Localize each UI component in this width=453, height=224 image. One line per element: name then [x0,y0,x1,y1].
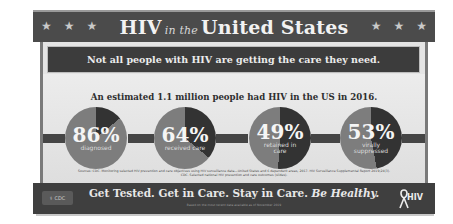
title-hiv: HIV [120,16,162,38]
sources-text: Sources: CDC. Monitoring selected HIV pr… [43,169,425,178]
star-icon: ★ [87,19,98,33]
subtitle-box: Not all people with HIV are getting the … [47,46,420,73]
stat-label: received care [165,145,206,152]
star-icon: ★ [416,19,427,33]
stat-circle-virally-suppressed: 53% virally suppressed [340,107,402,169]
star-icon: ★ [371,19,382,33]
hiv-label: HIV [407,193,423,202]
sources-line-2: CDC. Selected national HIV prevention an… [43,173,425,177]
stars-left: ★ ★ ★ [41,19,97,33]
title-united-states: United States [201,16,348,38]
connector-bar [43,134,65,143]
stat-circle-diagnosed: 86% diagnosed [65,107,127,169]
stat-label: diagnosed [80,145,111,152]
connector-bar [216,134,248,143]
header-banner: ★ ★ ★ HIVin theUnited States ★ ★ ★ [33,10,435,42]
connector-bar [128,134,154,143]
tagline-emphasis: Be Healthy. [311,187,379,199]
stat-circle-received-care: 64% received care [154,107,216,169]
stat-percent: 86% [73,125,120,145]
estimate-heading: An estimated 1.1 million people had HIV … [43,92,425,102]
star-icon: ★ [41,19,52,33]
stat-circle-retained-in-care: 49% retained in care [249,107,311,169]
star-icon: ★ [64,19,75,33]
stars-right: ★ ★ ★ [371,19,427,33]
stat-label: virally suppressed [351,142,391,155]
stat-label: retained in care [263,142,297,155]
tagline-text: Get Tested. Get in Care. Stay in Care. [89,187,308,199]
title-in-the: in the [165,24,198,37]
stat-percent: 53% [348,122,395,142]
subtitle: Not all people with HIV are getting the … [87,54,380,65]
hiv-logo: HIV [398,188,430,210]
bottom-shadow [36,214,434,216]
footer-tagline: Get Tested. Get in Care. Stay in Care. B… [33,187,435,199]
stat-percent: 49% [257,122,304,142]
page-title: HIVin theUnited States [120,16,349,38]
connector-bar [311,134,340,143]
star-icon: ★ [393,19,404,33]
footer-fineprint: Based on the most recent data available … [33,203,435,207]
connector-bar [402,134,425,143]
stat-percent: 64% [162,125,209,145]
